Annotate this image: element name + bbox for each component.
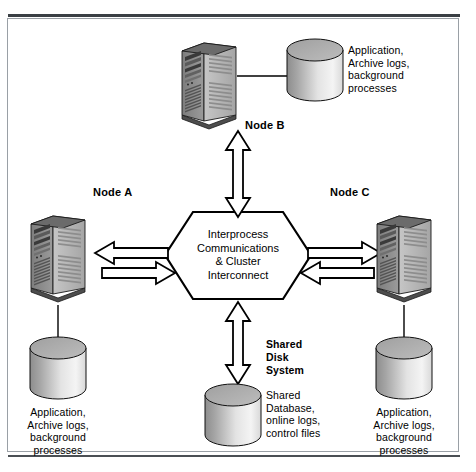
node-a-disk-caption-line-2: Archive logs, (6, 419, 110, 432)
arrow-node-a-to-interconnect (102, 262, 175, 284)
interconnect-label-line-2: Communications (178, 242, 298, 256)
node-b-disk-caption-line-1: Application, (348, 44, 468, 57)
shared-disk-heading-line-2: Disk (266, 351, 356, 364)
interconnect-label-line-1: Interprocess (178, 228, 298, 242)
node-b-disk-caption-line-2: Archive logs, (348, 57, 468, 70)
node-a-disk-caption-line-3: background (6, 431, 110, 444)
node-a-disk-caption: Application, Archive logs, background pr… (6, 406, 110, 456)
node-c-disk-caption: Application, Archive logs, background pr… (352, 406, 456, 456)
arrow-interconnect-to-node-a (95, 242, 168, 264)
arrow-interconnect-to-node-c (308, 242, 381, 264)
node-a-label: Node A (93, 186, 132, 198)
arrow-interconnect-shared-disk (226, 302, 250, 384)
node-c-disk-caption-line-4: processes (352, 444, 456, 457)
node-b-disk-caption-line-4: processes (348, 82, 468, 95)
arrow-node-b-interconnect (226, 131, 250, 217)
shared-disk-icon (205, 384, 261, 446)
node-b-label: Node B (245, 119, 285, 131)
node-b-disk-icon (287, 39, 343, 101)
shared-disk-caption-line-4: control files (266, 427, 366, 440)
node-c-disk-caption-line-2: Archive logs, (352, 419, 456, 432)
node-c-disk-caption-line-1: Application, (352, 406, 456, 419)
node-a-disk-caption-line-4: processes (6, 444, 110, 457)
node-a-server-icon (31, 216, 85, 302)
shared-disk-heading-line-3: System (266, 364, 356, 377)
shared-disk-caption-line-1: Shared (266, 389, 366, 402)
node-c-server-icon (377, 216, 431, 302)
node-a-disk-caption-line-1: Application, (6, 406, 110, 419)
shared-disk-heading-line-1: Shared (266, 338, 356, 351)
shared-disk-caption-line-2: Database, (266, 402, 366, 415)
arrow-node-c-to-interconnect (301, 262, 374, 284)
node-c-label: Node C (330, 186, 370, 198)
node-b-disk-caption: Application, Archive logs, background pr… (348, 44, 468, 94)
shared-disk-caption-line-3: online logs, (266, 414, 366, 427)
diagram-canvas: Node B Node A Node C Interprocess Commun… (0, 0, 476, 472)
interconnect-label-line-4: Interconnect (178, 269, 298, 283)
shared-disk-system-heading: Shared Disk System (266, 338, 356, 377)
node-b-disk-caption-line-3: background (348, 69, 468, 82)
interconnect-label-line-3: & Cluster (178, 255, 298, 269)
node-b-server-icon (182, 43, 236, 129)
interconnect-label: Interprocess Communications & Cluster In… (178, 228, 298, 282)
node-a-disk-icon (30, 337, 86, 399)
node-c-disk-icon (376, 337, 432, 399)
node-c-disk-caption-line-3: background (352, 431, 456, 444)
shared-disk-caption: Shared Database, online logs, control fi… (266, 389, 366, 439)
